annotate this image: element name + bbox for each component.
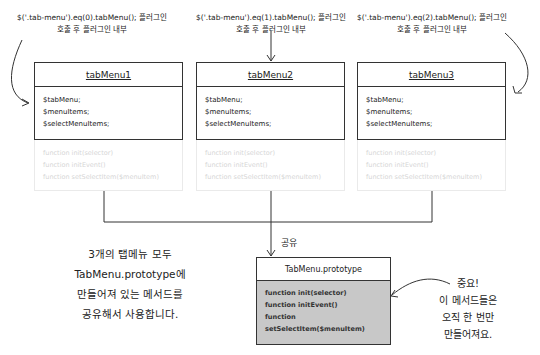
- property: $menuItems;: [366, 106, 505, 118]
- caption-line2: 호출 후 플러그인 내부: [191, 24, 351, 36]
- caption-tabmenu1: $('.tab-menu').eq(0).tabMenu(); 플러그인 호출 …: [12, 12, 172, 36]
- note-line: 만들어져요.: [418, 326, 518, 343]
- note-line: TabMenu.prototype에: [50, 264, 210, 284]
- curved-arrow-right: [505, 33, 528, 92]
- method: function setSelectItem($menuItem): [366, 171, 505, 183]
- instance-title: tabMenu2: [248, 70, 293, 80]
- caption-line2: 호출 후 플러그인 내부: [352, 24, 512, 36]
- caption-tabmenu2: $('.tab-menu').eq(1).tabMenu(); 플러그인 호출 …: [191, 12, 351, 36]
- property: $selectMenuItems;: [366, 118, 505, 130]
- instance-methods-faded: function init(selector) function initEve…: [196, 140, 345, 191]
- note-line: 오직 한 번만: [418, 309, 518, 326]
- instance-title: tabMenu1: [86, 70, 131, 80]
- prototype-methods: function init(selector) function initEve…: [257, 281, 390, 344]
- instance-box-tabmenu1: tabMenu1 $tabMenu; $menuItems; $selectMe…: [34, 62, 183, 191]
- method: function setSelectItem($menuItem): [43, 171, 182, 183]
- share-label: 공유: [281, 236, 297, 249]
- caption-line1: $('.tab-menu').eq(2).tabMenu(); 플러그인: [352, 12, 512, 24]
- note-line: 이 메서드들은: [418, 292, 518, 309]
- method: function setSelectItem($menuItem): [265, 311, 390, 335]
- right-note: 중요! 이 메서드들은 오직 한 번만 만들어져요.: [418, 275, 518, 343]
- method: function init(selector): [265, 287, 390, 299]
- method: function init(selector): [205, 147, 344, 159]
- note-line: 만들어져 있는 메서드를: [50, 284, 210, 304]
- note-line: 중요!: [418, 275, 518, 292]
- method: function init(selector): [366, 147, 505, 159]
- share-bracket: [104, 190, 432, 222]
- caption-line1: $('.tab-menu').eq(0).tabMenu(); 플러그인: [12, 12, 172, 24]
- curved-arrow-left: [11, 40, 28, 103]
- instance-properties: $tabMenu; $menuItems; $selectMenuItems;: [358, 87, 505, 130]
- property: $selectMenuItems;: [43, 118, 182, 130]
- property: $menuItems;: [205, 106, 344, 118]
- caption-tabmenu3: $('.tab-menu').eq(2).tabMenu(); 플러그인 호출 …: [352, 12, 512, 36]
- method: function initEvent(): [43, 159, 182, 171]
- instance-box-tabmenu2: tabMenu2 $tabMenu; $menuItems; $selectMe…: [196, 62, 345, 191]
- property: $selectMenuItems;: [205, 118, 344, 130]
- instance-box-tabmenu3: tabMenu3 $tabMenu; $menuItems; $selectMe…: [357, 62, 506, 191]
- method: function initEvent(): [366, 159, 505, 171]
- method: function init(selector): [43, 147, 182, 159]
- note-line: 3개의 탭메뉴 모두: [50, 244, 210, 264]
- instance-methods-faded: function init(selector) function initEve…: [357, 140, 506, 191]
- property: $tabMenu;: [205, 94, 344, 106]
- prototype-title: TabMenu.prototype: [285, 265, 362, 274]
- method: function initEvent(): [265, 299, 390, 311]
- property: $tabMenu;: [366, 94, 505, 106]
- instance-methods-faded: function init(selector) function initEve…: [34, 140, 183, 191]
- method: function initEvent(): [205, 159, 344, 171]
- left-note: 3개의 탭메뉴 모두 TabMenu.prototype에 만들어져 있는 메서…: [50, 244, 210, 324]
- instance-title: tabMenu3: [409, 70, 454, 80]
- method: function setSelectItem($menuItem): [205, 171, 344, 183]
- instance-properties: $tabMenu; $menuItems; $selectMenuItems;: [197, 87, 344, 130]
- property: $tabMenu;: [43, 94, 182, 106]
- instance-properties: $tabMenu; $menuItems; $selectMenuItems;: [35, 87, 182, 130]
- note-line: 공유해서 사용합니다.: [50, 304, 210, 324]
- caption-line2: 호출 후 플러그인 내부: [12, 24, 172, 36]
- property: $menuItems;: [43, 106, 182, 118]
- caption-line1: $('.tab-menu').eq(1).tabMenu(); 플러그인: [191, 12, 351, 24]
- prototype-box: TabMenu.prototype function init(selector…: [256, 257, 391, 345]
